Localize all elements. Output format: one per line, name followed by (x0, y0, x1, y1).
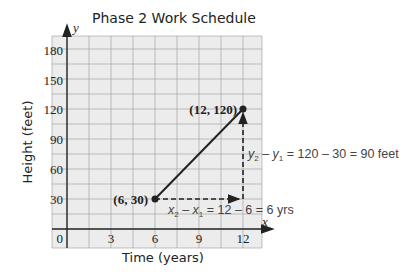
y-tick-120: 120 (44, 102, 64, 117)
point-label-6-30: (6, 30) (113, 192, 148, 207)
chart-plot: y x 180 150 120 90 60 30 0 3 6 9 12 (6, … (0, 0, 408, 277)
y-axis-label: Height (feet) (20, 101, 35, 184)
y-tick-30: 30 (50, 192, 63, 207)
y-tick-60: 60 (50, 162, 63, 177)
y-tick-180: 180 (44, 43, 64, 58)
x-tick-9: 9 (196, 231, 203, 246)
point-label-12-120: (12, 120) (189, 102, 237, 117)
run-annotation: x2 – x1 = 12 – 6 = 6 yrs (167, 203, 294, 219)
x-tick-3: 3 (108, 231, 115, 246)
rise-annotation: y2 – y1 = 120 – 30 = 90 feet (247, 147, 399, 163)
y-tick-150: 150 (44, 73, 64, 88)
x-tick-6: 6 (152, 231, 159, 246)
x-axis-label: Time (years) (122, 250, 204, 265)
y-tick-90: 90 (50, 132, 63, 147)
x-tick-12: 12 (237, 231, 250, 246)
point-12-120 (240, 106, 247, 113)
origin-label: 0 (57, 231, 64, 246)
point-6-30 (152, 196, 159, 203)
y-axis-symbol: y (71, 20, 79, 35)
